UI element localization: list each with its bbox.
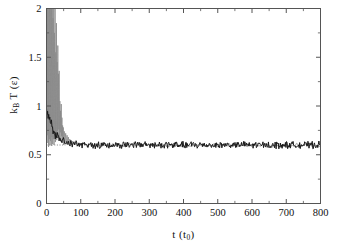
series-averaged-temperature (47, 109, 320, 149)
x-tick-label: 400 (176, 207, 192, 218)
y-axis-label-k: k (7, 108, 19, 114)
x-tick-label: 300 (141, 207, 157, 218)
x-tick-label: 200 (107, 207, 123, 218)
figure-container: 010020030040050060070080000.511.52 kB T … (0, 0, 339, 251)
x-axis-label-t: t (t (172, 228, 186, 240)
x-axis-label-close: ) (191, 228, 195, 240)
plot-svg: 010020030040050060070080000.511.52 (0, 0, 339, 251)
y-axis-label-epsilon: ε (7, 80, 19, 85)
plot-frame (47, 9, 321, 204)
x-axis-label: t (t0) (0, 228, 339, 242)
y-axis-label-close: ) (7, 76, 19, 80)
x-tick-label: 600 (244, 207, 260, 218)
x-tick-label: 700 (278, 207, 294, 218)
x-tick-label: 0 (44, 207, 49, 218)
y-axis-label-t: T ( (7, 85, 19, 102)
y-axis-label: kB T (ε) (7, 59, 21, 131)
x-tick-label: 100 (73, 207, 89, 218)
y-tick-label: 0 (36, 198, 41, 209)
y-axis-label-sub-b: B (12, 102, 21, 107)
y-tick-label: 0.5 (28, 149, 41, 160)
y-tick-label: 2 (36, 3, 41, 14)
x-tick-label: 800 (313, 207, 329, 218)
y-tick-label: 1.5 (28, 52, 41, 63)
series-instantaneous-temperature (47, 0, 320, 147)
y-tick-label: 1 (36, 101, 41, 112)
x-tick-label: 500 (210, 207, 226, 218)
